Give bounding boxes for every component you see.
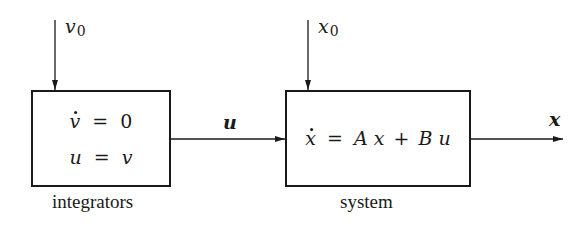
- matrix-b: B: [418, 127, 432, 149]
- input-u: u: [439, 127, 451, 149]
- x-output-label: x: [549, 108, 560, 130]
- v-var: v: [122, 146, 133, 168]
- system-equation: x = A x + B u: [286, 127, 470, 149]
- u-var: u: [70, 146, 82, 168]
- u-signal-label: u: [223, 111, 237, 133]
- v0-label: v0: [65, 15, 86, 39]
- integrators-equation-1: v = 0: [32, 110, 170, 132]
- integrators-equation-2: u = v: [32, 146, 170, 168]
- equals-sign: =: [94, 146, 110, 168]
- system-caption: system: [340, 191, 393, 213]
- x-dot-var: x: [305, 127, 316, 149]
- v0-label-sub: 0: [77, 23, 86, 39]
- plus-sign: +: [394, 127, 410, 149]
- x0-label: x0: [318, 15, 339, 39]
- v-dot-var: v: [70, 110, 81, 132]
- v0-label-var: v: [65, 15, 76, 37]
- integrators-caption: integrators: [52, 191, 133, 213]
- matrix-a: A: [354, 127, 368, 149]
- equals-sign: =: [327, 127, 343, 149]
- integrators-block: [32, 91, 170, 186]
- equals-sign: =: [92, 110, 108, 132]
- zero-value: 0: [120, 110, 132, 132]
- state-x: x: [374, 127, 385, 149]
- x0-label-var: x: [318, 15, 329, 37]
- x0-label-sub: 0: [330, 23, 339, 39]
